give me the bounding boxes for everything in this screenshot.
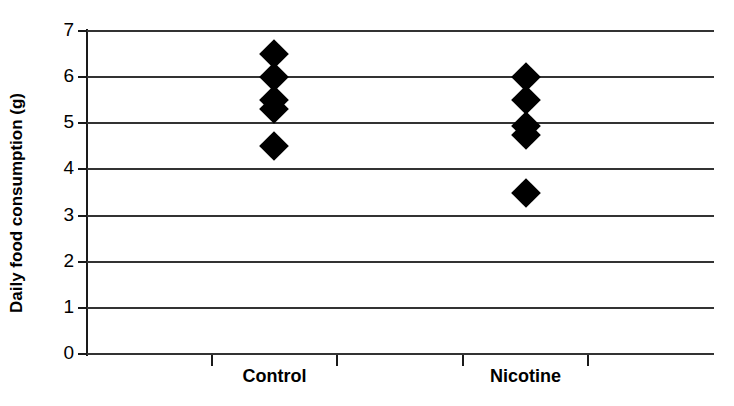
y-axis-tick-label: 2	[48, 251, 74, 270]
y-axis-tick	[78, 215, 87, 217]
y-axis-tick-label: 4	[48, 158, 74, 177]
x-axis-tick	[462, 355, 464, 366]
y-axis-tick-label: 0	[48, 343, 74, 362]
gridline	[86, 215, 714, 217]
y-axis-title-text: Daily food consumption (g)	[7, 93, 27, 313]
x-axis-category-label-control: Control	[242, 366, 306, 387]
y-axis-title: Daily food consumption (g)	[0, 0, 34, 406]
y-axis-tick	[78, 30, 87, 32]
y-axis-tick	[78, 307, 87, 309]
x-axis-tick	[587, 355, 589, 366]
y-axis-tick-labels: 01234567	[40, 0, 74, 406]
y-axis-tick	[78, 122, 87, 124]
y-axis-tick	[78, 168, 87, 170]
x-axis-category-label-nicotine: Nicotine	[490, 366, 561, 387]
plot-area	[86, 31, 714, 354]
y-axis-tick	[78, 261, 87, 263]
gridline	[86, 353, 714, 355]
y-axis-tick-label: 3	[48, 205, 74, 224]
y-axis-tick	[78, 76, 87, 78]
x-axis-tick	[211, 355, 213, 366]
x-axis-tick	[336, 355, 338, 366]
gridline	[86, 168, 714, 170]
y-axis-tick-label: 7	[48, 20, 74, 39]
y-axis-tick-label: 6	[48, 66, 74, 85]
gridline	[86, 122, 714, 124]
gridline	[86, 261, 714, 263]
gridline	[86, 76, 714, 78]
y-axis-tick	[78, 353, 87, 355]
gridline	[86, 307, 714, 309]
y-axis-tick-label: 5	[48, 112, 74, 131]
gridline	[86, 30, 714, 32]
y-axis-tick-label: 1	[48, 297, 74, 316]
chart-figure: Daily food consumption (g) 01234567 Cont…	[0, 0, 734, 406]
